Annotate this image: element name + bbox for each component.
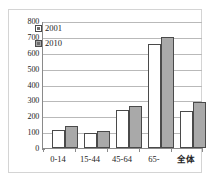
bar-2001[interactable] <box>180 111 193 148</box>
bar-2001[interactable] <box>84 133 97 148</box>
x-tick-mark <box>43 148 44 152</box>
y-tick-label: 100 <box>13 129 39 137</box>
y-tick-label: 200 <box>13 113 39 121</box>
legend-item-2001[interactable]: 2001 <box>35 22 85 34</box>
legend-swatch-gray-icon <box>35 40 42 47</box>
gridline <box>43 54 202 55</box>
legend-item-2010[interactable]: 2010 <box>35 37 85 49</box>
x-tick-mark <box>202 148 203 152</box>
legend-label: 2001 <box>45 24 62 33</box>
bar-2010[interactable] <box>97 131 110 148</box>
bar-2001[interactable] <box>52 130 65 148</box>
y-tick-label: 300 <box>13 97 39 105</box>
x-tick-mark <box>107 148 108 152</box>
bar-2010[interactable] <box>161 37 174 148</box>
x-tick-label-65: 65- <box>138 155 170 164</box>
y-tick-label: 0 <box>13 145 39 153</box>
y-tick-label: 500 <box>13 66 39 74</box>
bar-2010[interactable] <box>129 106 142 148</box>
bar-2001[interactable] <box>148 44 161 148</box>
bar-2010[interactable] <box>193 102 206 148</box>
chart-frame: 800 700 600 500 400 300 200 100 0 <box>8 9 202 173</box>
legend-swatch-white-icon <box>35 25 42 32</box>
x-tick-mark <box>171 148 172 152</box>
bar-2010[interactable] <box>65 126 78 148</box>
gridline <box>43 86 202 87</box>
bar-2001[interactable] <box>116 110 129 148</box>
legend: 2001 2010 <box>35 22 85 52</box>
y-tick-label: 400 <box>13 82 39 90</box>
gridline <box>43 101 202 102</box>
x-tick-label-0-14: 0-14 <box>42 155 74 164</box>
legend-label: 2010 <box>45 39 62 48</box>
x-tick-mark <box>139 148 140 152</box>
gridline <box>43 70 202 71</box>
x-tick-label-zentai: 全体 <box>170 155 202 164</box>
x-tick-label-45-64: 45-64 <box>106 155 138 164</box>
x-tick-label-15-44: 15-44 <box>74 155 106 164</box>
x-tick-mark <box>75 148 76 152</box>
